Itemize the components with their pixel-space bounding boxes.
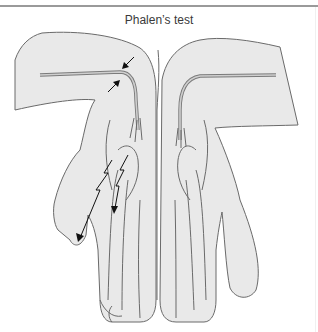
left-hand <box>15 32 156 322</box>
hands-contact-line <box>157 50 159 300</box>
right-hand <box>160 38 298 322</box>
phalens-test-illustration <box>0 0 318 332</box>
